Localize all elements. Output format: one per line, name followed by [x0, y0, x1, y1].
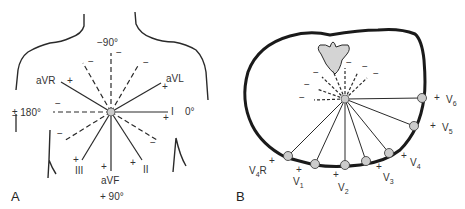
label-i: I — [171, 106, 174, 117]
label-v3: V3 — [383, 172, 394, 185]
ray-dash — [345, 78, 367, 99]
label-0-deg: 0° — [185, 106, 195, 117]
sign-v5-plus: + — [430, 120, 436, 131]
sign-minus: − — [346, 57, 352, 68]
sign-ii-plus: + — [130, 157, 136, 168]
sign-minus: − — [299, 92, 305, 103]
sign-avl-minus: − — [57, 128, 63, 139]
panel-b-horizontal-plane: − − − − − − + V6 + V5 + V4 + V3 + V2 + V… — [236, 30, 457, 205]
ray-dash — [322, 77, 345, 99]
label-minus-90: −90° — [97, 37, 118, 48]
sign-i-plus: + — [163, 112, 169, 123]
lead-iii-negative-axis — [111, 64, 139, 112]
sign-avl-plus: + — [162, 81, 168, 92]
label-avr: aVR — [36, 75, 55, 86]
lead-avr-negative-axis — [111, 112, 157, 140]
heart-center-node-b — [341, 95, 349, 103]
electrode-v1 — [311, 160, 320, 169]
sign-avf-minus: − — [116, 47, 122, 58]
label-avf: aVF — [101, 175, 119, 186]
lead-v6-line — [345, 98, 422, 99]
sign-v6-plus: + — [434, 92, 440, 103]
sign-i-minus: − — [55, 98, 61, 109]
electrode-v5 — [410, 122, 419, 131]
electrode-v6 — [418, 94, 427, 103]
label-plus-90: + 90° — [100, 191, 124, 202]
torso-outline-right — [135, 12, 208, 100]
sign-minus: − — [373, 68, 379, 79]
panel-a-frontal-plane: −90° aVR aVL I 0° ± 180° II aVF III + 90… — [11, 12, 208, 204]
panel-label-b: B — [236, 189, 245, 204]
heart-center-node — [107, 108, 115, 116]
sign-avl-minus-top: − — [88, 56, 94, 67]
label-v4r: V4R — [249, 165, 267, 178]
lead-v3-line — [345, 99, 366, 161]
left-arm-outline — [48, 130, 56, 178]
electrode-v4r — [284, 152, 293, 161]
lead-v5-line — [345, 99, 414, 126]
ray-dash — [314, 99, 345, 100]
lead-iii-positive-axis — [82, 112, 111, 160]
lead-v4r-line — [288, 99, 345, 156]
sign-v3-plus: + — [376, 161, 382, 172]
ray-dash — [317, 89, 345, 99]
label-v6: V6 — [446, 94, 457, 107]
lead-avl-positive-axis — [111, 83, 161, 112]
label-v4: V4 — [410, 157, 421, 170]
sign-minus: − — [304, 79, 310, 90]
electrode-v3 — [362, 157, 371, 166]
label-iii: III — [75, 165, 83, 176]
electrode-v2 — [341, 161, 350, 170]
right-arm-outline — [173, 138, 186, 172]
sign-v1-plus: + — [296, 164, 302, 175]
sign-avr-plus: + — [67, 75, 73, 86]
label-v2: V2 — [338, 182, 349, 195]
sign-v4r-plus: + — [269, 155, 275, 166]
vertebra-shape — [318, 42, 349, 74]
lead-ii-positive-axis — [111, 112, 142, 160]
sign-v2-plus: + — [333, 169, 339, 180]
sign-minus: − — [313, 67, 319, 78]
ray-dash — [345, 72, 358, 99]
ecg-lead-diagram: −90° aVR aVL I 0° ± 180° II aVF III + 90… — [0, 0, 465, 209]
label-ii: II — [143, 164, 149, 175]
label-v5: V5 — [442, 122, 453, 135]
sign-avf-plus: + — [101, 161, 107, 172]
lead-avl-negative-axis — [64, 112, 111, 141]
lead-avr-positive-axis — [61, 82, 111, 112]
sign-avr-minus: − — [150, 137, 156, 148]
label-v1: V1 — [293, 176, 304, 189]
sign-v4-plus: + — [401, 150, 407, 161]
sign-minus: − — [362, 61, 368, 72]
sign-iii-minus: − — [143, 57, 149, 68]
lead-v1-line — [315, 99, 345, 164]
label-180-deg: ± 180° — [12, 107, 41, 118]
sign-iii-plus: + — [73, 154, 79, 165]
electrode-v4 — [385, 149, 394, 158]
label-avl: aVL — [166, 73, 184, 84]
panel-label-a: A — [11, 189, 20, 204]
lead-ii-negative-axis — [83, 63, 111, 112]
